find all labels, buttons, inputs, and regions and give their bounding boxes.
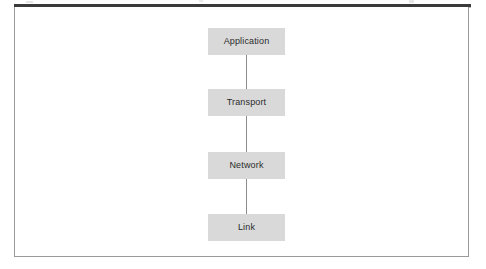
layer-label-transport: Transport (227, 98, 267, 107)
layer-label-application: Application (224, 37, 270, 46)
layer-box-application: Application (208, 28, 285, 55)
connector-network-link (246, 179, 247, 214)
figure-screenshot: Application Transport Network Link (0, 0, 486, 269)
connector-application-transport (246, 55, 247, 89)
connector-transport-network (246, 116, 247, 152)
layer-label-network: Network (229, 161, 263, 170)
layer-box-transport: Transport (208, 89, 285, 116)
layer-box-link: Link (208, 214, 285, 241)
layer-box-network: Network (208, 152, 285, 179)
protocol-stack-diagram: Application Transport Network Link (0, 0, 486, 269)
layer-label-link: Link (238, 223, 255, 232)
